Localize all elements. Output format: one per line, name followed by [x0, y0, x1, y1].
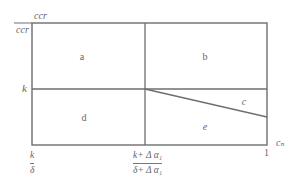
region-d: d	[82, 112, 87, 123]
diagonal-line	[145, 89, 267, 117]
top-label-numerator: ccr	[34, 11, 47, 21]
x-tick-left-fraction: k δ	[30, 151, 34, 175]
x-tick-left-denominator: δ	[30, 166, 34, 176]
x-tick-middle-fraction: k+ Δ α₁ δ+ Δ α₁	[133, 151, 162, 175]
region-a: a	[80, 51, 84, 62]
region-e: e	[203, 121, 207, 132]
top-label-denominator: ccr	[16, 25, 29, 35]
y-label-k: k	[22, 83, 27, 94]
fraction-bar	[133, 163, 162, 164]
outer-box	[32, 23, 267, 145]
fraction-bar	[30, 163, 34, 164]
region-b: b	[203, 51, 208, 62]
x-tick-middle-numerator: k+ Δ α₁	[133, 151, 162, 161]
x-tick-left-numerator: k	[30, 151, 34, 161]
x-tick-middle-denominator: δ+ Δ α₁	[133, 166, 162, 176]
region-c: c	[242, 96, 246, 107]
x-axis-label-cn: cₙ	[276, 138, 285, 148]
x-tick-right: 1	[264, 148, 269, 158]
